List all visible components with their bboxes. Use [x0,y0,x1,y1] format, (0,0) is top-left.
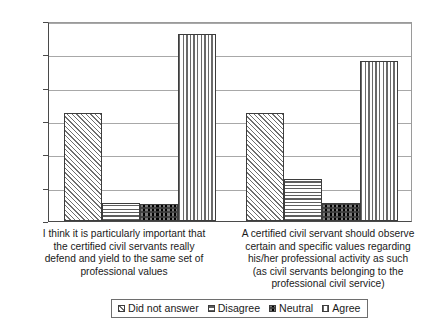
legend-label: Neutral [279,303,313,314]
category-label-line: professional civil service) [226,278,430,291]
plot-area [48,22,412,222]
legend-entry: Did not answer [118,303,199,314]
bar [178,34,216,221]
legend-label: Disagree [218,303,260,314]
category-label-line: the certified civil servants really [18,241,230,254]
gridline [49,90,411,91]
bar [360,61,398,221]
bar [64,113,102,221]
y-axis-tick-mark [43,222,48,223]
category-label-1: A certified civil servant should observe… [226,228,430,291]
gridline [49,156,411,157]
bar [322,203,360,221]
legend: Did not answerDisagreeNeutralAgree [111,299,368,318]
category-label-line: (as civil servants belonging to the [226,266,430,279]
legend-swatch-icon [208,305,215,312]
gridline [49,23,411,24]
legend-swatch-icon [269,305,276,312]
category-label-line: I think it is particularly important tha… [18,228,230,241]
category-label-line: professional values [18,266,230,279]
category-label-line: defend and yield to the same set of [18,253,230,266]
category-label-line: his/her professional activity as such [226,253,430,266]
category-label-0: I think it is particularly important tha… [18,228,230,278]
legend-entry: Neutral [269,303,313,314]
legend-swatch-icon [322,305,329,312]
category-label-line: A certified civil servant should observe [226,228,430,241]
gridline [49,190,411,191]
bar [102,203,140,221]
legend-label: Agree [332,303,360,314]
legend-label: Did not answer [128,303,199,314]
legend-entry: Agree [322,303,360,314]
category-label-line: certain and specific values regarding [226,241,430,254]
legend-entry: Disagree [208,303,260,314]
bar [246,113,284,221]
gridline [49,56,411,57]
legend-swatch-icon [118,305,125,312]
gridline [49,123,411,124]
bar [284,179,322,221]
bar-chart: 0%10%20%30%40%50%60% I think it is parti… [0,0,430,325]
bar [140,204,178,221]
